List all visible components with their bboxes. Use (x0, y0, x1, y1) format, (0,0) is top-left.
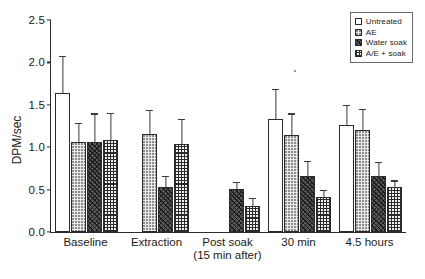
bar[interactable] (103, 140, 118, 232)
bar-slot (55, 20, 70, 232)
error-bar (165, 176, 166, 188)
bar-slot (229, 20, 244, 232)
error-bar (110, 113, 111, 141)
error-bar (236, 182, 237, 190)
bar-slot (71, 20, 86, 232)
bar-group (122, 20, 193, 232)
error-bar (323, 190, 324, 198)
error-bar (362, 109, 363, 131)
bar-group (264, 20, 335, 232)
error-bar (394, 180, 395, 188)
bar[interactable] (174, 144, 189, 232)
error-bar (275, 89, 276, 120)
bar-chart: DPM/sec 0.00.51.01.52.02.5 BaselineExtra… (0, 0, 425, 279)
legend-label: Untreated (366, 17, 402, 26)
bar-group-bars (51, 20, 122, 232)
error-bar (252, 198, 253, 206)
legend-label: A/E + soak (366, 49, 406, 58)
bar[interactable] (355, 130, 370, 232)
bar-slot (126, 20, 141, 232)
error-bar (291, 113, 292, 136)
bar-slot (245, 20, 260, 232)
error-bar (378, 162, 379, 177)
x-tick-label: Extraction (121, 236, 192, 262)
bar[interactable] (87, 142, 102, 232)
bar-slot (197, 20, 212, 232)
bar-slot (300, 20, 315, 232)
bar-slot (213, 20, 228, 232)
legend-item[interactable]: Water soak (355, 38, 407, 48)
bar[interactable] (55, 93, 70, 232)
artifact-speck (294, 70, 296, 72)
error-bar (149, 110, 150, 135)
legend-item[interactable]: A/E + soak (355, 48, 407, 58)
legend-label: Water soak (366, 38, 407, 47)
bar-slot (284, 20, 299, 232)
bar-group (193, 20, 264, 232)
x-axis-labels: BaselineExtractionPost soak(15 min after… (50, 236, 405, 262)
error-bar (94, 113, 95, 143)
error-bar (181, 119, 182, 145)
legend-item[interactable]: AE (355, 27, 407, 37)
x-tick-sublabel: (15 min after) (192, 249, 263, 262)
legend-swatch-icon (355, 29, 362, 36)
legend-swatch-icon (355, 50, 362, 57)
bar[interactable] (316, 197, 331, 232)
bar[interactable] (158, 187, 173, 232)
bar[interactable] (339, 125, 354, 232)
legend-swatch-icon (355, 18, 362, 25)
error-bar (307, 161, 308, 177)
bar[interactable] (245, 206, 260, 232)
x-tick-label: Baseline (50, 236, 121, 262)
bar-slot (142, 20, 157, 232)
legend-swatch-icon (355, 39, 362, 46)
y-axis-title: DPM/sec (10, 80, 24, 200)
bar-group-bars (264, 20, 335, 232)
x-tick-label: 4.5 hours (334, 236, 405, 262)
bar[interactable] (268, 119, 283, 232)
bar-slot (174, 20, 189, 232)
bar-group (51, 20, 122, 232)
error-bar (62, 56, 63, 94)
bar[interactable] (142, 134, 157, 232)
legend-item[interactable]: Untreated (355, 17, 407, 27)
bar[interactable] (71, 142, 86, 232)
x-tick-label: 30 min (263, 236, 334, 262)
error-bar (346, 105, 347, 126)
bar[interactable] (284, 135, 299, 232)
bar-group-bars (122, 20, 193, 232)
bar-slot (87, 20, 102, 232)
bar[interactable] (229, 189, 244, 232)
bar[interactable] (387, 187, 402, 232)
x-tick-label: Post soak(15 min after) (192, 236, 263, 262)
bar-slot (103, 20, 118, 232)
bar[interactable] (300, 176, 315, 232)
legend: UntreatedAEWater soakA/E + soak (350, 12, 413, 63)
error-bar (78, 123, 79, 143)
bar[interactable] (371, 176, 386, 232)
bar-slot (158, 20, 173, 232)
bar-slot (316, 20, 331, 232)
bar-slot (268, 20, 283, 232)
bar-group-bars (193, 20, 264, 232)
legend-label: AE (366, 28, 377, 37)
